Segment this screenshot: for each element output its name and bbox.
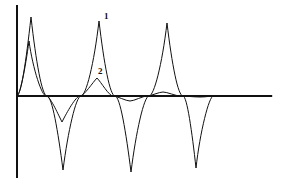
curve-label-1: 1: [104, 12, 109, 21]
damped-oscillation-chart: 1 2: [0, 0, 282, 189]
curve-label-2: 2: [98, 67, 103, 76]
chart-plot-area: [0, 0, 282, 189]
series-line-1: [17, 17, 213, 172]
series-line-2: [17, 41, 272, 122]
